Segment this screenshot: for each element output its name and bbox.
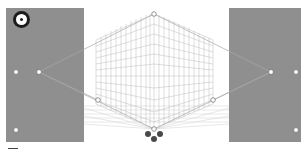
ground-plane-dot[interactable] [151, 136, 157, 142]
right-grid-extent-handle [211, 98, 216, 103]
right-panel-handle-bottom[interactable] [294, 128, 298, 132]
grid-height-handle [152, 12, 157, 17]
widget-inner-circle [16, 14, 27, 25]
right-plane-dot[interactable] [157, 131, 163, 137]
bottom-ruler-mark [8, 148, 18, 149]
right-panel-handle-outer[interactable] [294, 70, 298, 74]
left-grid-extent-handle [96, 98, 101, 103]
perspective-grid-canvas[interactable] [0, 0, 307, 152]
perspective-grid [0, 0, 307, 152]
left-vanishing-point-handle[interactable] [37, 70, 41, 74]
left-plane-dot[interactable] [145, 131, 151, 137]
plane-switching-widget-icon[interactable] [13, 11, 30, 28]
left-panel-handle-outer[interactable] [14, 70, 18, 74]
right-vanishing-point-handle[interactable] [269, 70, 273, 74]
ground-origin-handle [152, 127, 157, 132]
left-panel-handle-bottom[interactable] [14, 128, 18, 132]
widget-center-dot [20, 18, 23, 21]
